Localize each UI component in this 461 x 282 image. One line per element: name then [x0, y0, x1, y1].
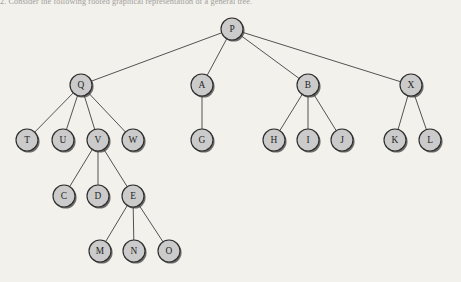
tree-edge-v-c: [69, 149, 92, 187]
node-label: W: [129, 135, 138, 145]
tree-node-j[interactable]: J: [331, 129, 355, 153]
node-label: U: [60, 135, 67, 145]
tree-edge-q-v: [84, 95, 95, 130]
tree-node-w[interactable]: W: [122, 129, 146, 153]
node-label: K: [392, 135, 399, 145]
node-label: I: [306, 135, 309, 145]
tree-edge-p-b: [240, 35, 299, 79]
nodes-layer: PQABXTUVWGHIJKLCDEMNO: [16, 18, 443, 264]
tree-edge-e-n: [133, 207, 134, 241]
node-label: V: [95, 135, 102, 145]
tree-node-t[interactable]: T: [16, 129, 40, 153]
node-label: L: [427, 135, 433, 145]
tree-node-p[interactable]: P: [221, 18, 245, 42]
tree-edge-x-l: [414, 95, 426, 130]
tree-diagram: PQABXTUVWGHIJKLCDEMNO: [0, 0, 461, 282]
tree-node-d[interactable]: D: [87, 185, 111, 209]
node-label: D: [95, 191, 102, 201]
node-label: T: [24, 135, 30, 145]
tree-edge-p-x: [242, 32, 401, 82]
tree-node-i[interactable]: I: [297, 129, 321, 153]
node-label: B: [305, 80, 311, 90]
tree-node-b[interactable]: B: [297, 74, 321, 98]
tree-edge-b-j: [314, 94, 337, 131]
node-label: P: [229, 24, 234, 34]
node-label: H: [271, 135, 278, 145]
node-label: C: [61, 191, 67, 201]
tree-node-v[interactable]: V: [87, 129, 111, 153]
tree-edge-b-h: [280, 94, 303, 131]
node-label: E: [130, 191, 136, 201]
tree-edge-q-u: [66, 95, 77, 130]
tree-edge-x-k: [398, 95, 408, 130]
tree-node-l[interactable]: L: [419, 129, 443, 153]
node-label: G: [199, 135, 206, 145]
tree-node-g[interactable]: G: [191, 129, 215, 153]
node-label: A: [199, 80, 206, 90]
tree-node-k[interactable]: K: [384, 129, 408, 153]
tree-node-a[interactable]: A: [191, 74, 215, 98]
tree-svg: PQABXTUVWGHIJKLCDEMNO: [0, 0, 461, 282]
tree-edge-p-a: [207, 38, 227, 75]
tree-node-n[interactable]: N: [123, 240, 147, 264]
tree-node-o[interactable]: O: [158, 240, 182, 264]
tree-node-h[interactable]: H: [263, 129, 287, 153]
tree-node-q[interactable]: Q: [70, 74, 94, 98]
node-label: O: [166, 246, 173, 256]
tree-node-e[interactable]: E: [122, 185, 146, 209]
node-label: X: [408, 80, 415, 90]
tree-edge-e-o: [139, 205, 164, 242]
tree-edge-e-m: [105, 205, 127, 242]
tree-node-u[interactable]: U: [52, 129, 76, 153]
node-label: M: [96, 246, 105, 256]
tree-edge-v-e: [104, 149, 128, 187]
node-label: N: [131, 246, 138, 256]
tree-node-c[interactable]: C: [53, 185, 77, 209]
tree-node-m[interactable]: M: [89, 240, 113, 264]
node-label: J: [340, 135, 344, 145]
tree-node-x[interactable]: X: [400, 74, 424, 98]
node-label: Q: [78, 80, 85, 90]
